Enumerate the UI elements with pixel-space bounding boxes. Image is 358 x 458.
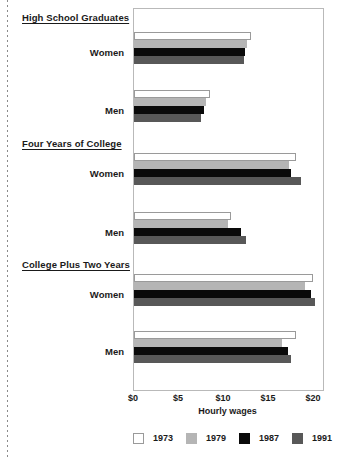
legend-item-1987: 1987 [239,433,292,444]
legend-label-1991: 1991 [312,433,332,443]
bar-college-women-1987 [134,169,291,177]
bar-hs-women-1979 [134,40,247,48]
bar-plus-two-women-1987 [134,290,311,298]
group-heading-college-plus-two-years: College Plus Two Years [22,259,130,270]
bar-plus-two-women-1973 [134,274,313,282]
row-label-hs-women: Women [90,47,124,58]
row-label-hs-men: Men [105,105,124,116]
legend-item-1973: 1973 [133,433,186,444]
bar-plus-two-men-1973 [134,331,296,339]
legend-swatch-1979-icon [186,433,197,444]
bar-college-women-1973 [134,153,296,161]
legend-swatch-1991-icon [292,433,303,444]
bar-hs-men-1973 [134,90,210,98]
bar-plus-two-women-1991 [134,298,315,306]
x-tick-0: $0 [128,393,138,403]
bar-hs-men-1987 [134,106,204,114]
bar-college-men-1979 [134,220,228,228]
bar-college-men-1973 [134,212,231,220]
bar-hs-men-1991 [134,114,201,122]
row-label-college-men: Men [105,227,124,238]
row-label-college-women: Women [90,168,124,179]
chart-legend: 1973 1979 1987 1991 [133,430,347,446]
group-heading-four-years-of-college: Four Years of College [22,138,122,149]
category-label-column: High School Graduates Women Men Four Yea… [0,8,129,389]
x-tick-10: $10 [215,393,230,403]
x-tick-5: $5 [173,393,183,403]
bar-plus-two-women-1979 [134,282,305,290]
bar-college-men-1991 [134,236,246,244]
plot-area [133,8,324,391]
row-label-plus-two-women: Women [90,289,124,300]
legend-label-1979: 1979 [206,433,226,443]
x-axis-tick-labels: $0 $5 $10 $15 $20 [133,393,322,407]
legend-item-1979: 1979 [186,433,239,444]
row-label-plus-two-men: Men [105,346,124,357]
bar-hs-men-1979 [134,98,206,106]
x-axis-title: Hourly wages [133,406,322,416]
group-heading-high-school-graduates: High School Graduates [22,12,129,23]
bar-plus-two-men-1979 [134,339,282,347]
bar-college-women-1979 [134,161,289,169]
x-tick-15: $15 [260,393,275,403]
bar-plus-two-men-1991 [134,355,291,363]
legend-label-1973: 1973 [153,433,173,443]
bar-plus-two-men-1987 [134,347,288,355]
bar-hs-women-1991 [134,56,244,64]
bar-hs-women-1987 [134,48,245,56]
bar-college-men-1987 [134,228,241,236]
bar-hs-women-1973 [134,32,251,40]
legend-swatch-1987-icon [239,433,250,444]
legend-label-1987: 1987 [259,433,279,443]
bar-college-women-1991 [134,177,301,185]
x-tick-20: $20 [305,393,320,403]
hourly-wages-bar-chart: High School Graduates Women Men Four Yea… [0,0,358,458]
legend-item-1991: 1991 [292,433,345,444]
legend-swatch-1973-icon [133,433,144,444]
